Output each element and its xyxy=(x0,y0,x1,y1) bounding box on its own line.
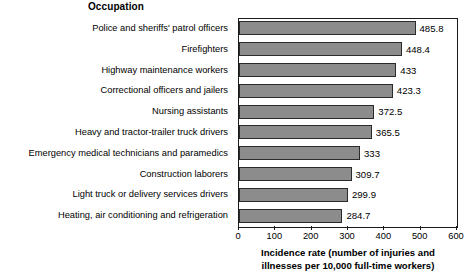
x-tick-mark xyxy=(238,226,239,230)
x-tick-label: 600 xyxy=(448,231,464,242)
bar-value-label: 485.8 xyxy=(420,23,444,34)
category-label: Heavy and tractor-trailer truck drivers xyxy=(0,127,228,138)
x-tick-label: 500 xyxy=(412,231,428,242)
bar xyxy=(239,125,372,139)
category-label: Correctional officers and jailers xyxy=(0,85,228,96)
x-tick-label: 0 xyxy=(235,231,240,242)
category-label-column: Police and sheriffs' patrol officersFire… xyxy=(0,18,232,226)
bar xyxy=(239,209,342,223)
category-label: Light truck or delivery services drivers xyxy=(0,189,228,200)
category-label: Police and sheriffs' patrol officers xyxy=(0,23,228,34)
category-label: Heating, air conditioning and refrigerat… xyxy=(0,210,228,221)
x-tick-mark xyxy=(383,226,384,230)
x-tick-mark xyxy=(311,226,312,230)
category-label: Firefighters xyxy=(0,44,228,55)
bar-value-label: 423.3 xyxy=(397,85,421,96)
x-axis: 0100200300400500600 xyxy=(238,226,458,244)
bar xyxy=(239,21,416,35)
incidence-rate-bar-chart: Occupation Police and sheriffs' patrol o… xyxy=(0,0,468,278)
bar-value-label: 448.4 xyxy=(406,44,430,55)
category-axis-title: Occupation xyxy=(0,1,232,13)
category-label: Emergency medical technicians and parame… xyxy=(0,148,228,159)
bar-value-label: 365.5 xyxy=(376,127,400,138)
bar-value-label: 333 xyxy=(364,148,380,159)
category-label: Construction laborers xyxy=(0,169,228,180)
x-axis-title-line: Incidence rate (number of injuries and xyxy=(232,247,464,260)
bar xyxy=(239,84,393,98)
x-tick-mark xyxy=(274,226,275,230)
bar xyxy=(239,42,402,56)
bar xyxy=(239,188,348,202)
bar xyxy=(239,146,360,160)
x-tick-label: 100 xyxy=(267,231,283,242)
bars-layer: 485.8448.4433423.3372.5365.5333309.7299.… xyxy=(239,18,457,226)
bar-value-label: 299.9 xyxy=(352,189,376,200)
bar xyxy=(239,105,374,119)
bar xyxy=(239,167,352,181)
category-label: Highway maintenance workers xyxy=(0,65,228,76)
x-tick-mark xyxy=(456,226,457,230)
x-tick-mark xyxy=(420,226,421,230)
bar-value-label: 433 xyxy=(400,65,416,76)
x-axis-title-line: illnesses per 10,000 full-time workers) xyxy=(232,260,464,273)
bar-value-label: 284.7 xyxy=(346,210,370,221)
x-tick-label: 200 xyxy=(303,231,319,242)
bar xyxy=(239,63,396,77)
bar-value-label: 372.5 xyxy=(378,106,402,117)
bar-value-label: 309.7 xyxy=(356,169,380,180)
x-axis-title: Incidence rate (number of injuries andil… xyxy=(232,247,464,272)
x-tick-label: 400 xyxy=(376,231,392,242)
x-tick-mark xyxy=(347,226,348,230)
x-tick-label: 300 xyxy=(339,231,355,242)
category-label: Nursing assistants xyxy=(0,106,228,117)
